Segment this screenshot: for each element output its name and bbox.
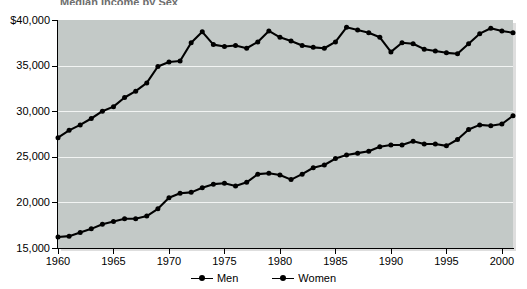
x-axis-tick <box>502 249 503 254</box>
x-axis-tick-label: 1985 <box>315 256 355 267</box>
y-axis-tick <box>52 20 58 21</box>
gridline <box>58 66 513 67</box>
x-axis-tick-label: 1965 <box>93 256 133 267</box>
line-marker-icon <box>191 274 213 283</box>
x-axis-tick-label: 1990 <box>371 256 411 267</box>
chart-legend: Men Women <box>0 270 527 286</box>
y-axis-tick <box>52 157 58 158</box>
x-axis-tick-label: 1970 <box>149 256 189 267</box>
y-axis-tick-label: 35,000 <box>16 60 50 71</box>
income-line-chart: Median Income by Sex $40,00035,00030,000… <box>0 0 527 289</box>
y-axis-tick <box>52 202 58 203</box>
y-axis-tick-label: 15,000 <box>16 243 50 254</box>
legend-label: Women <box>298 273 336 284</box>
x-axis-tick-label: 1975 <box>204 256 244 267</box>
x-axis-tick-label: 1995 <box>426 256 466 267</box>
gridline <box>58 111 513 112</box>
x-axis-tick <box>391 249 392 254</box>
x-axis-tick <box>280 249 281 254</box>
y-axis-labels: $40,00035,00030,00025,00020,00015,000 <box>0 0 50 289</box>
x-axis-tick-label: 1960 <box>38 256 78 267</box>
plot-area <box>58 20 513 248</box>
legend-label: Men <box>217 273 238 284</box>
y-axis-tick-label: 25,000 <box>16 151 50 162</box>
legend-item-women[interactable]: Women <box>272 273 336 284</box>
chart-title: Median Income by Sex <box>60 0 360 5</box>
x-axis-tick <box>446 249 447 254</box>
x-axis-tick <box>169 249 170 254</box>
y-axis-tick-label: 30,000 <box>16 106 50 117</box>
x-axis-tick-label: 2000 <box>482 256 522 267</box>
gridline <box>58 157 513 158</box>
line-marker-icon <box>272 274 294 283</box>
legend-item-men[interactable]: Men <box>191 273 238 284</box>
gridline <box>58 202 513 203</box>
x-axis-tick <box>224 249 225 254</box>
y-axis-line <box>57 20 58 249</box>
y-axis-tick-label: 20,000 <box>16 197 50 208</box>
x-axis-tick-label: 1980 <box>260 256 300 267</box>
x-axis-tick <box>113 249 114 254</box>
y-axis-tick <box>52 66 58 67</box>
x-axis-tick <box>335 249 336 254</box>
y-axis-tick <box>52 111 58 112</box>
y-axis-tick-label: $40,000 <box>10 15 50 26</box>
x-axis-tick <box>58 249 59 254</box>
